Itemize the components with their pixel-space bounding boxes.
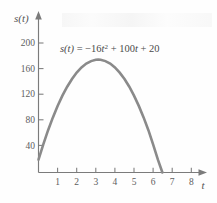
- x-tick-label-3: 3: [93, 177, 98, 187]
- plot-canvas: 40 80 120 160 200 1 2 3 4 5 6 7 8 s(t) t: [0, 0, 217, 203]
- y-tick-label-120: 120: [21, 89, 36, 99]
- parabola-figure: 40 80 120 160 200 1 2 3 4 5 6 7 8 s(t) t: [0, 0, 217, 203]
- y-tick-label-200: 200: [21, 38, 36, 48]
- x-tick-label-4: 4: [113, 177, 118, 187]
- x-tick-label-2: 2: [74, 177, 79, 187]
- y-axis-title: s(t): [14, 12, 29, 25]
- y-tick-label-160: 160: [21, 64, 36, 74]
- x-tick-label-7: 7: [170, 177, 175, 187]
- y-tick-marks: [39, 43, 44, 145]
- y-axis-arrow-icon: [35, 11, 42, 20]
- parabola-curve: [39, 60, 163, 173]
- x-tick-label-1: 1: [55, 177, 60, 187]
- x-axis-arrow-icon: [199, 169, 208, 176]
- y-tick-label-40: 40: [26, 141, 36, 151]
- x-tick-label-8: 8: [189, 177, 194, 187]
- x-tick-marks: [58, 168, 192, 173]
- equation-annotation: s(t) = −16t2 + 100t + 20: [60, 43, 160, 56]
- x-tick-label-5: 5: [132, 177, 137, 187]
- y-tick-label-80: 80: [26, 115, 36, 125]
- x-tick-label-6: 6: [151, 177, 156, 187]
- x-axis-title: t: [201, 179, 205, 191]
- equation-lhs: s(t): [60, 43, 75, 55]
